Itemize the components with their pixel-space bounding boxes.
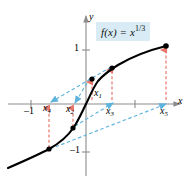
newtons-method-figure: f(x) = x1/3 x y –1 1 –1 x1 x2 x3 x4 x5 (0, 0, 189, 186)
curve-points (46, 43, 168, 151)
iterate-label-x3: x3 (106, 106, 114, 117)
point-x3 (109, 65, 114, 70)
iterate-label-x5: x5 (160, 106, 168, 117)
x-axis-label: x (178, 96, 182, 106)
y-tick-label-pos-one: 1 (74, 43, 79, 53)
point-x5 (163, 43, 169, 49)
iterate-x3-sub: 3 (110, 110, 113, 117)
y-tick-label-neg-one: –1 (70, 145, 80, 155)
iterate-x2-sub: 2 (70, 108, 73, 115)
function-exponent: 1/3 (135, 24, 146, 33)
function-equation-text: f(x) = x (101, 26, 135, 38)
iterate-label-x1: x1 (94, 88, 102, 99)
point-x1 (89, 76, 94, 81)
function-equation-label: f(x) = x1/3 (96, 22, 150, 41)
iterate-x5-sub: 5 (164, 110, 167, 117)
point-x2 (70, 125, 75, 130)
iterate-label-x2: x2 (66, 104, 74, 115)
x-tick-label-neg-one: –1 (24, 106, 34, 116)
iterate-x1-sub: 1 (98, 92, 101, 99)
point-x4 (46, 146, 51, 151)
tangent-x3-to-x4 (51, 67, 111, 102)
iterate-label-x4: x4 (43, 103, 51, 114)
iterate-x4-sub: 4 (47, 107, 50, 114)
projection-arrows (49, 50, 166, 148)
y-axis-label: y (89, 12, 93, 22)
